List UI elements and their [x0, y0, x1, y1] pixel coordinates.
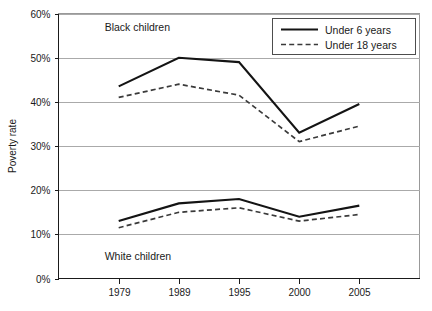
y-tick-label-30: 30%: [30, 141, 50, 152]
x-tick-label-1989: 1989: [168, 287, 191, 298]
x-tick-label-1979: 1979: [108, 287, 131, 298]
chart-canvas: 0%10%20%30%40%50%60% 1979198919952000200…: [0, 0, 432, 311]
y-tick-label-20: 20%: [30, 185, 50, 196]
annotation-white-children: White children: [105, 250, 172, 262]
x-tick-label-2005: 2005: [348, 287, 371, 298]
legend-label-under-6-years: Under 6 years: [325, 24, 391, 36]
y-tick-label-40: 40%: [30, 97, 50, 108]
legend-label-under-18-years: Under 18 years: [325, 39, 397, 51]
poverty-rate-line-chart: 0%10%20%30%40%50%60% 1979198919952000200…: [0, 0, 432, 311]
legend: Under 6 years Under 18 years: [273, 19, 416, 55]
y-tick-label-0: 0%: [36, 274, 51, 285]
y-axis-title: Poverty rate: [7, 119, 18, 173]
annotation-black-children: Black children: [105, 21, 171, 33]
y-tick-label-60: 60%: [30, 9, 50, 20]
x-tick-label-1995: 1995: [228, 287, 251, 298]
y-tick-label-50: 50%: [30, 53, 50, 64]
y-tick-label-10: 10%: [30, 229, 50, 240]
x-tick-label-2000: 2000: [288, 287, 311, 298]
